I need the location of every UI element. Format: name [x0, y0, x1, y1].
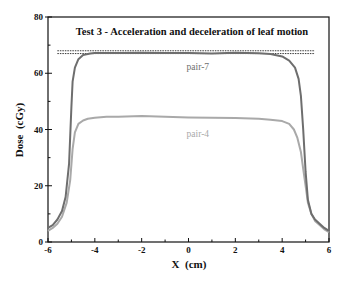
dose-profile-chart: -6-4-20246020406080 Test 3 - Acceleratio…	[0, 0, 347, 284]
x-tick-label: -2	[138, 245, 146, 255]
y-tick-label: 40	[34, 125, 44, 135]
x-tick-label: 2	[233, 245, 238, 255]
axis-tick-labels: -6-4-20246020406080	[34, 12, 332, 255]
series-pair-7	[48, 53, 329, 231]
x-axis-label: X (cm)	[172, 258, 207, 271]
chart-title: Test 3 - Acceleration and deceleration o…	[76, 26, 308, 37]
x-tick-label: -4	[91, 245, 99, 255]
series-label-pair-7: pair-7	[187, 62, 210, 72]
x-tick-label: -6	[44, 245, 52, 255]
y-tick-label: 20	[34, 181, 44, 191]
y-tick-label: 0	[39, 237, 44, 247]
series-labels: pair-7pair-4	[187, 62, 210, 138]
x-tick-label: 4	[280, 245, 285, 255]
series-layer	[48, 53, 329, 233]
x-tick-label: 6	[327, 245, 332, 255]
y-tick-label: 80	[34, 12, 44, 22]
x-tick-label: 0	[186, 245, 191, 255]
y-tick-label: 60	[34, 68, 44, 78]
series-label-pair-4: pair-4	[187, 129, 210, 139]
y-axis-label: Dose (cGy)	[13, 102, 26, 157]
